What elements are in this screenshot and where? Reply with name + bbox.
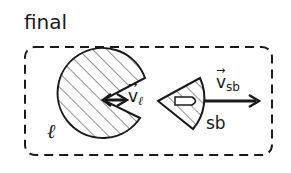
velocity-arrow-sb	[205, 95, 259, 107]
diagram-title: final	[24, 12, 67, 32]
small-body-label: sb	[206, 115, 226, 132]
velocity-label-l: →vℓ	[128, 88, 143, 107]
vector-arrow-icon: →	[128, 79, 137, 90]
bullet-icon	[175, 97, 196, 105]
velocity-arrow-l	[103, 94, 127, 106]
large-body-label: ℓ	[47, 121, 55, 141]
velocity-label-sb: →vsb	[216, 74, 240, 93]
vector-arrow-icon: →	[216, 65, 225, 76]
